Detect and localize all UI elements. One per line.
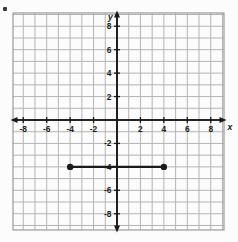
coordinate-plane-figure: -8-6-4-224688642-2-4-6-8yx (0, 0, 238, 242)
y-tick-label: 4 (107, 68, 112, 78)
y-tick-label: -2 (104, 138, 112, 148)
y-tick-label: -8 (104, 209, 112, 219)
x-tick-label: 8 (208, 124, 213, 134)
x-tick-label: -2 (90, 124, 98, 134)
x-tick-label: -8 (20, 124, 28, 134)
x-tick-label: -4 (66, 124, 74, 134)
figure-background (0, 0, 238, 242)
y-tick-label: 6 (107, 45, 112, 55)
x-tick-label: -6 (43, 124, 51, 134)
segment-endpoint-dot (67, 164, 73, 170)
x-tick-label: 4 (162, 124, 167, 134)
segment-endpoint-dot (161, 164, 167, 170)
x-tick-label: 2 (138, 124, 143, 134)
y-tick-label: -6 (104, 185, 112, 195)
page-artifact-mark (3, 7, 7, 11)
y-tick-label: 2 (107, 92, 112, 102)
coordinate-plane-svg: -8-6-4-224688642-2-4-6-8yx (0, 0, 238, 242)
x-tick-label: 6 (185, 124, 190, 134)
y-tick-label: 8 (107, 21, 112, 31)
